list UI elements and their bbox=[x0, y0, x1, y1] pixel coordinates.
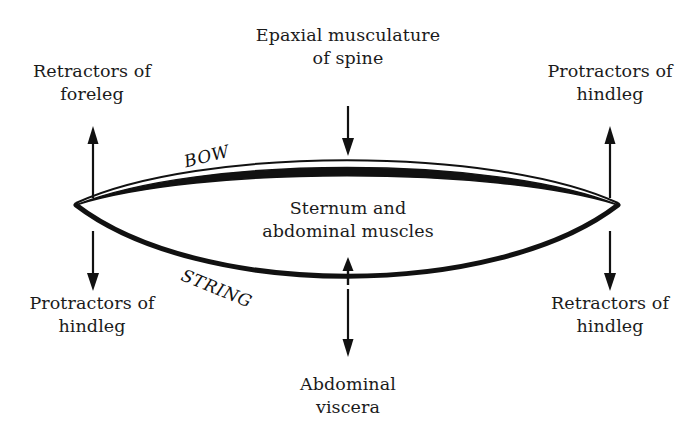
bow-and-string-diagram: BOW STRING Epaxial musculature of spine … bbox=[0, 0, 694, 441]
arrow-top-center-down bbox=[327, 106, 369, 158]
arrow-bottom-right-down bbox=[589, 231, 631, 293]
arrow-top-left-up bbox=[72, 124, 114, 200]
label-protractors-of-hindleg-bottom: Protractors of hindleg bbox=[8, 292, 176, 338]
label-sternum-and-abdominal-muscles: Sternum and abdominal muscles bbox=[238, 197, 458, 243]
arrow-center-up bbox=[329, 256, 367, 286]
arrow-top-right-up bbox=[589, 124, 631, 200]
label-retractors-of-foreleg: Retractors of foreleg bbox=[8, 60, 176, 106]
arrow-center-down bbox=[329, 289, 367, 359]
arrow-bottom-left-down bbox=[72, 231, 114, 293]
label-protractors-of-hindleg-top: Protractors of hindleg bbox=[526, 60, 694, 106]
label-abdominal-viscera: Abdominal viscera bbox=[258, 373, 438, 419]
label-epaxial-musculature: Epaxial musculature of spine bbox=[233, 24, 463, 70]
label-retractors-of-hindleg: Retractors of hindleg bbox=[526, 292, 694, 338]
